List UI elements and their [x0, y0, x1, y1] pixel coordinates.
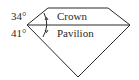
pavilion-label: Pavilion [57, 27, 94, 39]
gem-diagram: 34° 41° Crown Pavilion [0, 0, 139, 80]
pavilion-angle-label: 41° [11, 27, 26, 39]
crown-angle-label: 34° [11, 10, 26, 22]
crown-label: Crown [57, 10, 87, 22]
